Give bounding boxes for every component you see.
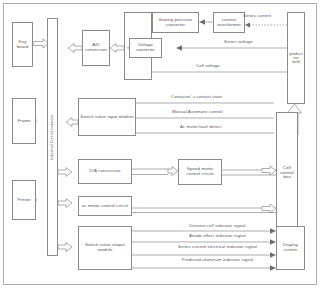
signal-label-produced-aluminum-indicator: Produced aluminum indicator signal: [165, 258, 270, 263]
block-ac-motor-control-circuit-label: ac motor control circuit: [82, 204, 129, 209]
block-display-screen[interactable]: Display screen: [276, 226, 305, 270]
signal-label-ac-motor-fault-detect: Ac motor fault detect: [180, 125, 222, 130]
block-flowing-pressure-converter[interactable]: flowing pressure converter: [152, 12, 199, 33]
signal-label-anode-effect-indicator: Anode effect indicator signal: [165, 234, 270, 239]
block-flowing-pressure-converter-label: flowing pressure converter: [154, 18, 197, 27]
signal-label-series-current-electrical-indicator: Series current electrical indicator sign…: [165, 245, 270, 250]
signal-label-manual-automatic-control: Manual Automatic control: [172, 110, 223, 115]
block-key-board-label: Key board: [14, 40, 31, 49]
block-voltage-converter-label: Voltage converter: [131, 43, 160, 52]
signal-label-series-current: Series current: [243, 14, 271, 19]
block-industrial-control-computer-label: Industrial Control computer: [51, 114, 55, 160]
block-production-field[interactable]: product ion field: [287, 12, 305, 104]
block-da-conversion[interactable]: D/A conversion: [78, 159, 132, 184]
block-display-screen-label: Display screen: [278, 243, 303, 252]
block-current-transformer-label: current transformer: [215, 18, 243, 27]
block-production-field-label: product ion field: [289, 52, 303, 64]
block-frame-label: Frame: [17, 119, 30, 124]
signal-label-cell-voltage: Cell voltage: [196, 64, 220, 69]
block-ad-conversion[interactable]: A/D conversion: [82, 30, 110, 66]
block-cell-control-box-label: Cell control box: [278, 166, 296, 180]
block-key-board[interactable]: Key board: [12, 22, 33, 67]
signal-label-disease-cell-indicator: Disease cell indicator signal: [165, 224, 270, 229]
block-cell-control-box[interactable]: Cell control box: [276, 112, 298, 234]
block-ac-motor-control-circuit[interactable]: ac motor control circuit: [78, 196, 132, 216]
block-industrial-control-computer[interactable]: Industrial Control computer: [47, 18, 58, 256]
signal-label-series-voltage: Series voltage: [224, 40, 253, 45]
block-printer[interactable]: Printer: [12, 180, 36, 220]
signal-label-contactor-contact-state: Contactor’ s contact state: [171, 95, 222, 100]
block-switch-value-output-module[interactable]: Switch value output module: [78, 226, 132, 270]
block-switch-value-input-module[interactable]: Switch value input module: [78, 98, 136, 136]
block-current-transformer[interactable]: current transformer: [213, 12, 245, 33]
block-da-conversion-label: D/A conversion: [90, 169, 121, 174]
block-frame[interactable]: Frame: [12, 98, 36, 144]
block-speed-motor-control-circuit-label: Speed motor control circuit: [180, 167, 220, 176]
block-ad-conversion-label: A/D conversion: [84, 43, 108, 52]
block-voltage-converter[interactable]: Voltage converter: [129, 38, 162, 58]
block-printer-label: Printer: [17, 198, 31, 203]
system-block-diagram: Key board Frame Printer Industrial Contr…: [0, 0, 320, 288]
block-speed-motor-control-circuit[interactable]: Speed motor control circuit: [178, 159, 222, 185]
block-switch-value-output-module-label: Switch value output module: [80, 243, 130, 252]
block-switch-value-input-module-label: Switch value input module: [80, 115, 134, 120]
